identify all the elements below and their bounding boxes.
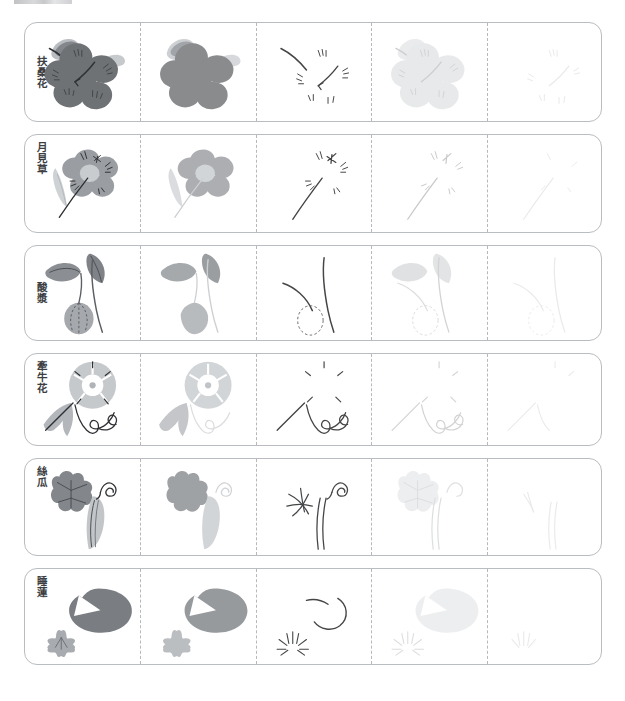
practice-row-water-lily[interactable]: 睡蓮 bbox=[24, 568, 602, 665]
artwork-morning-glory-stage-5 bbox=[488, 354, 602, 445]
artwork-water-lily-stage-4 bbox=[372, 569, 487, 664]
practice-cell[interactable] bbox=[487, 459, 602, 555]
practice-row-evening-primrose[interactable]: 月見草 bbox=[24, 134, 602, 233]
practice-cell[interactable] bbox=[256, 135, 372, 232]
artwork-loofah-stage-4 bbox=[372, 459, 487, 555]
practice-cell[interactable] bbox=[487, 569, 602, 664]
artwork-chinese-lantern-stage-5 bbox=[488, 246, 602, 340]
artwork-morning-glory-stage-3 bbox=[257, 354, 372, 445]
artwork-water-lily-stage-5 bbox=[488, 569, 602, 664]
artwork-chinese-lantern-stage-4 bbox=[372, 246, 487, 340]
artwork-loofah-stage-1 bbox=[25, 459, 141, 555]
artwork-hibiscus-stage-4 bbox=[372, 23, 487, 121]
artwork-morning-glory-stage-1 bbox=[25, 354, 141, 445]
practice-cell[interactable]: 睡蓮 bbox=[25, 569, 141, 664]
practice-row-loofah[interactable]: 絲瓜 bbox=[24, 458, 602, 556]
artwork-hibiscus-stage-2 bbox=[141, 23, 256, 121]
practice-cell[interactable]: 扶桑花 bbox=[25, 23, 141, 121]
artwork-loofah-stage-2 bbox=[141, 459, 256, 555]
practice-row-morning-glory[interactable]: 牽牛花 bbox=[24, 353, 602, 446]
cropped-header-sliver bbox=[14, 0, 72, 4]
artwork-morning-glory-stage-4 bbox=[372, 354, 487, 445]
artwork-evening-primrose-stage-3 bbox=[257, 135, 372, 232]
practice-row-hibiscus[interactable]: 扶桑花 bbox=[24, 22, 602, 122]
practice-cell[interactable] bbox=[140, 569, 256, 664]
practice-cell[interactable] bbox=[371, 354, 487, 445]
practice-cell[interactable] bbox=[140, 246, 256, 340]
artwork-evening-primrose-stage-1 bbox=[25, 135, 141, 232]
practice-cell[interactable] bbox=[487, 354, 602, 445]
practice-cell[interactable]: 絲瓜 bbox=[25, 459, 141, 555]
practice-cell[interactable] bbox=[371, 569, 487, 664]
artwork-hibiscus-stage-1 bbox=[25, 23, 141, 121]
artwork-loofah-stage-5 bbox=[488, 459, 602, 555]
practice-cell[interactable] bbox=[371, 246, 487, 340]
practice-cell[interactable] bbox=[140, 135, 256, 232]
artwork-morning-glory-stage-2 bbox=[141, 354, 256, 445]
practice-cell[interactable]: 牽牛花 bbox=[25, 354, 141, 445]
artwork-chinese-lantern-stage-3 bbox=[257, 246, 372, 340]
practice-cell[interactable]: 月見草 bbox=[25, 135, 141, 232]
practice-rows: 扶桑花 bbox=[0, 22, 625, 677]
practice-cell[interactable] bbox=[487, 23, 602, 121]
artwork-hibiscus-stage-3 bbox=[257, 23, 372, 121]
practice-cell[interactable] bbox=[256, 459, 372, 555]
artwork-water-lily-stage-1 bbox=[25, 569, 141, 664]
practice-cell[interactable] bbox=[371, 135, 487, 232]
artwork-hibiscus-stage-5 bbox=[488, 23, 602, 121]
practice-cell[interactable] bbox=[140, 23, 256, 121]
practice-cell[interactable] bbox=[140, 459, 256, 555]
practice-cell[interactable] bbox=[140, 354, 256, 445]
artwork-evening-primrose-stage-5 bbox=[488, 135, 602, 232]
practice-row-chinese-lantern[interactable]: 酸漿 bbox=[24, 245, 602, 341]
artwork-chinese-lantern-stage-2 bbox=[141, 246, 256, 340]
artwork-water-lily-stage-3 bbox=[257, 569, 372, 664]
practice-cell[interactable]: 酸漿 bbox=[25, 246, 141, 340]
practice-cell[interactable] bbox=[371, 459, 487, 555]
artwork-loofah-stage-3 bbox=[257, 459, 372, 555]
artwork-water-lily-stage-2 bbox=[141, 569, 256, 664]
practice-cell[interactable] bbox=[371, 23, 487, 121]
practice-cell[interactable] bbox=[256, 569, 372, 664]
practice-cell[interactable] bbox=[487, 135, 602, 232]
practice-cell[interactable] bbox=[487, 246, 602, 340]
artwork-evening-primrose-stage-2 bbox=[141, 135, 256, 232]
practice-cell[interactable] bbox=[256, 246, 372, 340]
artwork-chinese-lantern-stage-1 bbox=[25, 246, 141, 340]
worksheet-page: 扶桑花 bbox=[0, 0, 625, 701]
practice-cell[interactable] bbox=[256, 23, 372, 121]
practice-cell[interactable] bbox=[256, 354, 372, 445]
artwork-evening-primrose-stage-4 bbox=[372, 135, 487, 232]
